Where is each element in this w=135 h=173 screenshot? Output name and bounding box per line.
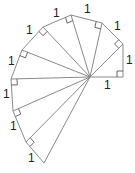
unit-edge (11, 79, 13, 111)
side-length-label: 1 (84, 2, 91, 16)
spoke-line (90, 44, 123, 77)
side-length-label: 1 (53, 6, 60, 20)
side-length-label: 1 (3, 87, 10, 101)
spoke-line (26, 77, 90, 142)
side-length-label: 1 (126, 53, 133, 67)
spoke-line (44, 77, 90, 163)
right-angle-icon (39, 31, 47, 35)
spiral-of-theodorus: 1111111111 (0, 0, 135, 173)
side-length-label: 1 (10, 119, 17, 133)
side-length-label: 1 (114, 19, 121, 33)
spoke-line (71, 15, 90, 77)
spoke-line (22, 50, 90, 77)
side-labels: 1111111111 (3, 2, 133, 165)
side-length-label: 1 (104, 78, 111, 92)
spoke-line (11, 77, 90, 79)
spoke-line (43, 27, 90, 77)
side-length-label: 1 (28, 151, 35, 165)
unit-edge (71, 15, 102, 23)
spoke-line (13, 77, 90, 111)
side-length-label: 1 (26, 23, 33, 37)
spoke-line (90, 23, 102, 77)
right-angle-icon (30, 138, 34, 147)
right-angle-icon (115, 40, 119, 48)
right-angle-icon (11, 79, 17, 85)
side-length-label: 1 (8, 54, 15, 68)
right-angle-icon (117, 71, 123, 77)
